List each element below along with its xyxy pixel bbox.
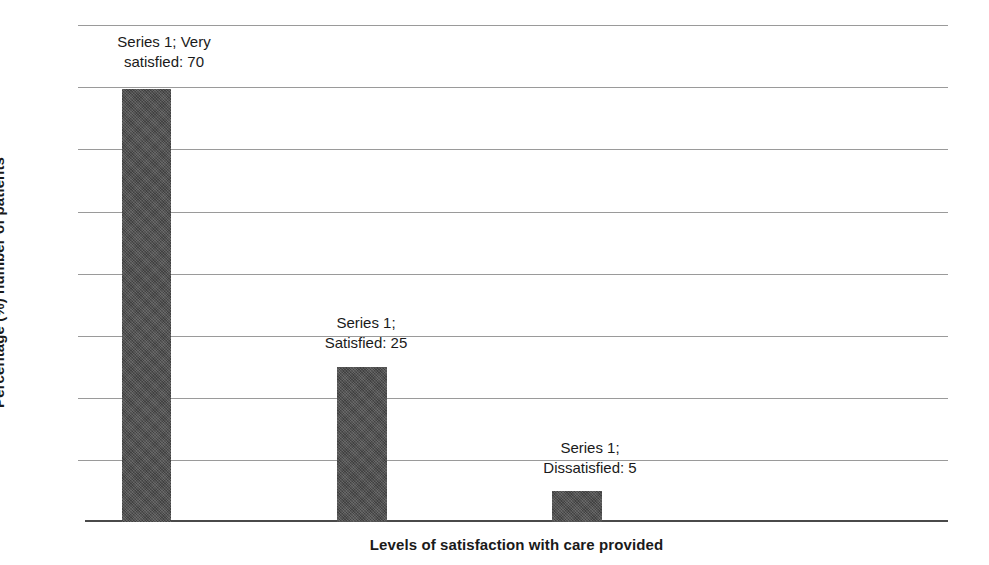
data-label-line1: Series 1; Very	[117, 32, 210, 52]
bar-chart: Percentage (%) number of patients Series…	[0, 0, 989, 565]
data-label-line1: Series 1;	[325, 313, 408, 333]
gridline-80	[85, 25, 948, 26]
gridline-50	[85, 212, 948, 213]
y-tick-60	[78, 149, 85, 150]
y-tick-10	[78, 460, 85, 461]
data-label-line2: Dissatisfied: 5	[543, 458, 636, 478]
y-axis-title: Percentage (%) number of patients	[0, 0, 24, 565]
data-label-line1: Series 1;	[543, 438, 636, 458]
y-tick-80	[78, 25, 85, 26]
gridline-70	[85, 87, 948, 88]
y-tick-40	[78, 274, 85, 275]
data-label-dissatisfied: Series 1; Dissatisfied: 5	[543, 438, 636, 478]
data-label-satisfied: Series 1; Satisfied: 25	[325, 313, 408, 353]
y-tick-20	[78, 398, 85, 399]
x-axis-baseline	[85, 520, 948, 522]
y-tick-70	[78, 87, 85, 88]
data-label-line2: Satisfied: 25	[325, 333, 408, 353]
plot-area	[85, 25, 948, 522]
y-tick-50	[78, 212, 85, 213]
y-tick-30	[78, 336, 85, 337]
x-axis-title: Levels of satisfaction with care provide…	[85, 536, 948, 553]
bar-dissatisfied[interactable]	[552, 491, 602, 522]
data-label-very-satisfied: Series 1; Very satisfied: 70	[117, 32, 210, 72]
gridline-40	[85, 274, 948, 275]
bar-satisfied[interactable]	[337, 367, 387, 522]
data-label-line2: satisfied: 70	[117, 52, 210, 72]
gridline-10	[85, 460, 948, 461]
gridline-60	[85, 149, 948, 150]
gridline-20	[85, 398, 948, 399]
gridline-30	[85, 336, 948, 337]
y-axis-title-text: Percentage (%) number of patients	[0, 157, 35, 408]
bar-very-satisfied[interactable]	[122, 89, 171, 522]
